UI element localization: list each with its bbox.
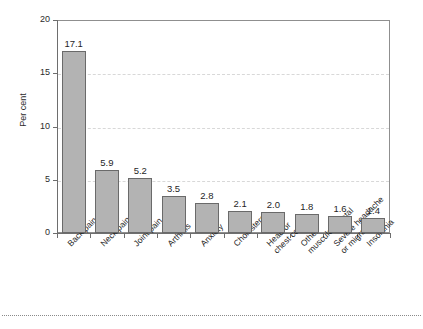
- bar: [62, 51, 86, 233]
- x-axis-tick: [224, 233, 225, 238]
- y-axis-tick: [53, 73, 57, 74]
- bar-value-label: 5.2: [120, 166, 160, 176]
- footer-divider: [2, 315, 421, 316]
- x-axis-tick: [57, 233, 58, 238]
- y-axis-tick-label-wrap: 5: [12, 175, 50, 184]
- bar: [361, 218, 385, 233]
- x-axis-tick: [257, 233, 258, 238]
- bar-value-label: 1.4: [353, 206, 393, 216]
- y-axis-tick-label-wrap: 20: [12, 15, 50, 24]
- y-axis-tick-label: 0: [16, 228, 50, 237]
- y-axis-tick-label-wrap: 15: [12, 68, 50, 77]
- bar: [128, 178, 152, 233]
- y-axis-tick-label: 5: [16, 175, 50, 184]
- y-axis-title: Per cent: [18, 80, 28, 140]
- y-axis-tick: [53, 127, 57, 128]
- x-axis-tick: [390, 233, 391, 238]
- gridline: [58, 74, 389, 75]
- bar: [195, 203, 219, 233]
- y-axis-tick: [53, 20, 57, 21]
- bar: [261, 212, 285, 233]
- bar: [295, 214, 319, 233]
- bar: [328, 216, 352, 233]
- y-axis-tick-label: 20: [16, 15, 50, 24]
- y-axis-tick-label: 15: [16, 68, 50, 77]
- gridline: [58, 128, 389, 129]
- bar: [162, 196, 186, 233]
- y-axis-line: [57, 20, 58, 233]
- bar: [95, 170, 119, 233]
- chart-figure: 05101520 Per cent Back painNeck painJoin…: [0, 0, 423, 329]
- x-axis-tick: [157, 233, 158, 238]
- y-axis-tick: [53, 180, 57, 181]
- x-axis-tick: [90, 233, 91, 238]
- x-axis-tick: [190, 233, 191, 238]
- x-axis-tick: [124, 233, 125, 238]
- bar-value-label: 17.1: [54, 39, 94, 49]
- y-axis-tick-label-wrap: 0: [12, 228, 50, 237]
- bar: [228, 211, 252, 233]
